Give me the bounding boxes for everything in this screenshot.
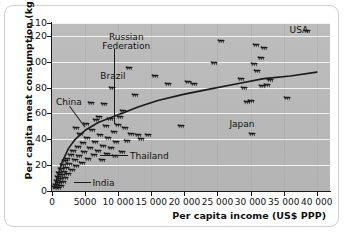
data-point-marker bbox=[190, 81, 198, 86]
x-axis-tick bbox=[118, 192, 119, 196]
data-point-marker bbox=[112, 139, 120, 144]
data-point-marker bbox=[247, 98, 255, 103]
data-point-marker bbox=[100, 102, 108, 107]
data-point-marker bbox=[119, 108, 127, 113]
x-axis-tick bbox=[251, 192, 252, 196]
x-axis-tick-label: 10 000 bbox=[102, 197, 134, 207]
data-point-marker bbox=[252, 42, 260, 47]
x-axis-tick-label: 35 000 bbox=[268, 197, 300, 207]
data-point-marker bbox=[91, 139, 99, 144]
x-axis-tick-label: 30 000 bbox=[235, 197, 267, 207]
data-point-marker bbox=[106, 116, 114, 121]
y-axis-tick bbox=[47, 139, 51, 140]
data-point-marker bbox=[107, 146, 115, 151]
chart-card: USA Russian Federation Brazil China Thai… bbox=[4, 5, 339, 227]
data-point-marker bbox=[104, 136, 112, 141]
data-point-marker bbox=[260, 45, 268, 50]
data-point-marker bbox=[257, 55, 265, 60]
data-point-marker bbox=[210, 61, 218, 66]
x-axis-tick-label: 0 bbox=[49, 197, 55, 207]
data-point-marker bbox=[237, 76, 245, 81]
y-axis-tick bbox=[47, 36, 51, 37]
x-axis-line bbox=[51, 191, 331, 192]
y-axis-tick-label: 40 bbox=[35, 134, 47, 143]
x-axis-tick bbox=[85, 192, 86, 196]
y-axis-tick bbox=[47, 165, 51, 166]
data-point-marker bbox=[118, 150, 126, 155]
x-axis-tick bbox=[52, 192, 53, 196]
data-point-marker bbox=[72, 125, 80, 130]
data-point-marker bbox=[144, 133, 152, 138]
x-axis-title: Per capita income (US$ PPP) bbox=[5, 210, 344, 221]
y-axis-title: Per capita meat consumption (kg) bbox=[23, 20, 34, 180]
data-point-marker bbox=[110, 129, 118, 134]
annotation-china-text: China bbox=[56, 97, 82, 107]
data-point-marker bbox=[283, 95, 291, 100]
data-point-marker bbox=[240, 85, 248, 90]
annotation-brazil-text: Brazil bbox=[100, 71, 125, 81]
x-axis-tick bbox=[217, 192, 218, 196]
x-axis-tick-label: 40 000 bbox=[301, 197, 333, 207]
data-points bbox=[52, 23, 330, 191]
data-point-marker bbox=[116, 115, 124, 120]
annotation-thailand-text: Thailand bbox=[130, 151, 169, 161]
y-axis-tick-label: 20 bbox=[35, 160, 47, 169]
data-point-marker bbox=[99, 143, 107, 148]
data-point-marker bbox=[94, 148, 102, 153]
chart-figure: USA Russian Federation Brazil China Thai… bbox=[0, 0, 345, 233]
y-axis-tick bbox=[47, 88, 51, 89]
data-point-marker bbox=[87, 101, 95, 106]
y-axis-line bbox=[51, 22, 52, 192]
data-point-marker bbox=[95, 115, 103, 120]
annotation-usa-text: USA bbox=[290, 25, 309, 35]
annotation-russian-federation: Russian Federation bbox=[102, 33, 150, 52]
data-point-marker bbox=[217, 39, 225, 44]
data-point-marker bbox=[102, 124, 110, 129]
y-axis-tick bbox=[47, 113, 51, 114]
data-point-marker bbox=[250, 62, 258, 67]
data-point-marker bbox=[263, 83, 271, 88]
y-axis-tick-label: 0 bbox=[41, 186, 47, 195]
data-point-marker bbox=[86, 146, 94, 151]
y-axis-tick bbox=[47, 62, 51, 63]
data-point-marker bbox=[88, 128, 96, 133]
annotation-russian-federation-line2: Federation bbox=[102, 42, 150, 52]
x-axis-tick-label: 5000 bbox=[74, 197, 97, 207]
data-point-marker bbox=[123, 138, 131, 143]
annotation-brazil: Brazil bbox=[100, 72, 125, 82]
x-axis-tick bbox=[184, 192, 185, 196]
data-point-marker bbox=[151, 73, 159, 78]
annotation-usa: USA bbox=[290, 26, 309, 36]
data-point-marker bbox=[164, 81, 172, 86]
y-axis-tick bbox=[47, 191, 51, 192]
data-point-marker bbox=[96, 133, 104, 138]
data-point-marker bbox=[83, 136, 91, 141]
plot-area: USA Russian Federation Brazil China Thai… bbox=[52, 23, 330, 191]
annotation-japan-text: Japan bbox=[229, 119, 254, 129]
data-point-marker bbox=[177, 124, 185, 129]
data-point-marker bbox=[131, 93, 139, 98]
data-point-marker bbox=[266, 77, 274, 82]
x-axis-tick-label: 25 000 bbox=[202, 197, 234, 207]
annotation-japan: Japan bbox=[229, 120, 254, 130]
x-axis-tick bbox=[284, 192, 285, 196]
data-point-marker bbox=[108, 85, 116, 90]
russian-federation-leader-line bbox=[114, 49, 115, 124]
data-point-marker bbox=[98, 157, 106, 162]
y-axis-tick-label: 60 bbox=[35, 108, 47, 117]
annotation-thailand: Thailand bbox=[130, 152, 169, 162]
x-axis-tick bbox=[317, 192, 318, 196]
data-point-marker bbox=[121, 125, 129, 130]
x-axis-tick bbox=[151, 192, 152, 196]
annotation-china: China bbox=[56, 98, 82, 108]
y-axis-tick-label: 80 bbox=[35, 83, 47, 92]
data-point-marker bbox=[248, 132, 256, 137]
annotation-india: India bbox=[92, 179, 114, 189]
thailand-leader-line bbox=[100, 155, 128, 156]
x-axis-tick-label: 15 000 bbox=[136, 197, 168, 207]
data-point-marker bbox=[253, 68, 261, 73]
x-axis-tick-label: 20 000 bbox=[169, 197, 201, 207]
y-axis-tick bbox=[47, 23, 51, 24]
data-point-marker bbox=[125, 66, 133, 71]
annotation-india-text: India bbox=[92, 178, 114, 188]
